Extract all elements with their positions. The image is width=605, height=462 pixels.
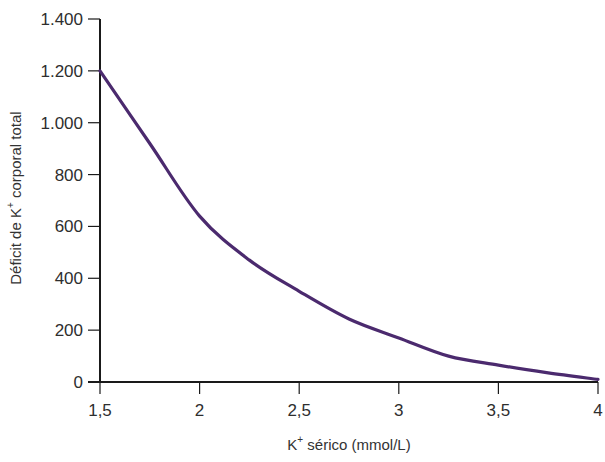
x-tick-label: 1,5 [88,401,112,420]
line-chart: 02004006008001.0001.2001.400 1,522,533,5… [0,0,605,462]
x-tick-label: 3,5 [487,401,511,420]
x-axis-title: K+ sérico (mmol/L) [287,434,410,453]
y-tick-label: 1.000 [40,114,83,133]
x-tick-label: 2 [195,401,204,420]
series-layer [100,71,598,380]
y-tick-label: 1.200 [40,62,83,81]
x-tick-label: 3 [394,401,403,420]
deficit-curve [100,71,598,380]
y-tick-label: 200 [55,321,83,340]
y-axis: 02004006008001.0001.2001.400 [40,10,100,392]
y-tick-label: 600 [55,217,83,236]
y-axis-title-base: Déficit de K [7,208,24,285]
x-tick-label: 4 [593,401,602,420]
y-axis-title: Déficit de K+ corporal total [5,111,24,284]
x-axis: 1,522,533,54 [88,382,603,420]
x-axis-title-rest: sérico (mmol/L) [303,436,411,453]
y-tick-label: 400 [55,269,83,288]
y-tick-label: 1.400 [40,10,83,29]
x-tick-label: 2,5 [287,401,311,420]
y-tick-label: 800 [55,166,83,185]
y-axis-title-rest: corporal total [7,111,24,202]
x-axis-title-base: K [287,436,297,453]
y-tick-label: 0 [74,373,83,392]
